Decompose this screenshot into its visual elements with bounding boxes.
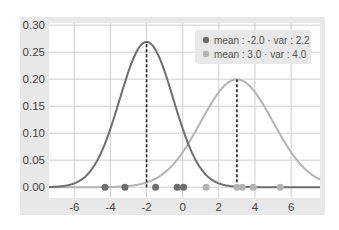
legend-label: mean : -2.0 · var : 2.2 bbox=[214, 35, 310, 46]
sample-dot bbox=[152, 184, 159, 191]
x-tick-label: -6 bbox=[69, 201, 79, 213]
sample-dot bbox=[203, 184, 210, 191]
sample-dot bbox=[277, 184, 284, 191]
y-tick-label: 0.10 bbox=[23, 127, 45, 139]
x-tick-label: -4 bbox=[105, 201, 116, 213]
x-tick-label: 6 bbox=[288, 201, 294, 213]
sample-dot bbox=[102, 184, 109, 191]
legend-label: mean : 3.0 · var : 4.0 bbox=[214, 49, 307, 60]
sample-dot bbox=[121, 184, 128, 191]
y-tick-label: 0.20 bbox=[23, 73, 45, 85]
y-tick-label: 0.15 bbox=[23, 100, 45, 112]
legend-marker-icon bbox=[203, 51, 209, 57]
x-tick-label: -2 bbox=[141, 201, 151, 213]
gaussian-chart: 0.000.050.100.150.200.250.30 -6-4-20246 … bbox=[0, 0, 339, 230]
sample-dot bbox=[174, 184, 181, 191]
y-tick-label: 0.00 bbox=[23, 181, 45, 193]
y-tick-label: 0.25 bbox=[23, 46, 45, 58]
x-tick-label: 4 bbox=[252, 201, 259, 213]
sample-dot bbox=[250, 184, 257, 191]
sample-dot bbox=[239, 184, 246, 191]
x-tick-label: 0 bbox=[179, 201, 185, 213]
y-tick-label: 0.30 bbox=[23, 19, 45, 31]
y-tick-label: 0.05 bbox=[23, 154, 45, 166]
legend-marker-icon bbox=[203, 37, 209, 43]
x-tick-label: 2 bbox=[216, 201, 222, 213]
legend: mean : -2.0 · var : 2.2mean : 3.0 · var … bbox=[195, 30, 311, 64]
sample-dot bbox=[180, 184, 187, 191]
